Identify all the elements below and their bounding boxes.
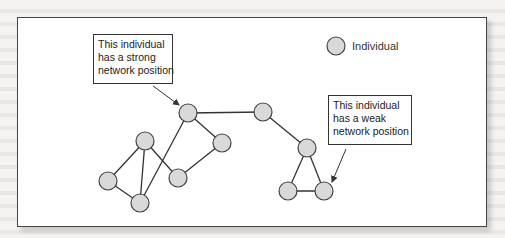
network-nodes: [99, 103, 333, 212]
network-diagram: [0, 0, 505, 238]
callout-line: This individual: [333, 99, 407, 112]
callout-line: has a weak: [333, 112, 407, 125]
callout-line: This individual: [98, 38, 168, 51]
callout-line: network position: [333, 125, 407, 138]
individual-node: [136, 132, 154, 150]
callout-arrows: [153, 86, 346, 182]
callout-line: network position: [98, 64, 168, 77]
individual-node: [279, 182, 297, 200]
legend-label: Individual: [352, 40, 398, 52]
individual-node: [169, 169, 187, 187]
individual-node-strong: [179, 104, 197, 122]
weak-position-callout: This individual has a weak network posit…: [328, 95, 412, 145]
callout-line: has a strong: [98, 51, 168, 64]
network-edge: [140, 113, 188, 203]
strong-callout-arrow: [153, 86, 179, 105]
individual-node: [213, 134, 231, 152]
network-edge: [188, 112, 263, 113]
legend-individual-icon: [327, 37, 345, 55]
individual-node: [254, 103, 272, 121]
individual-node: [131, 194, 149, 212]
individual-node: [99, 172, 117, 190]
weak-callout-arrow: [332, 149, 346, 182]
individual-node-weak: [315, 182, 333, 200]
strong-position-callout: This individual has a strong network pos…: [93, 34, 173, 84]
individual-node: [298, 139, 316, 157]
